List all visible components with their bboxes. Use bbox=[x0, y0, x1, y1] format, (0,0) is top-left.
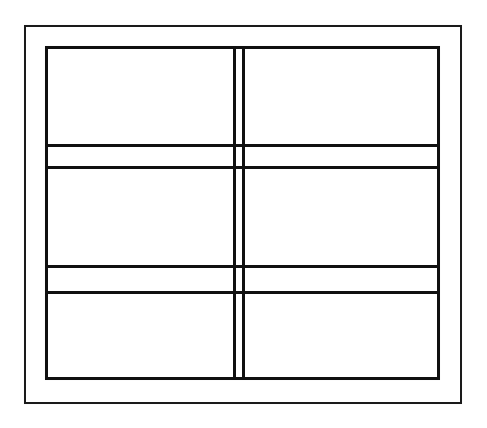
pane-bottom-left bbox=[48, 294, 233, 380]
pane-top-left bbox=[48, 49, 233, 144]
rail-strip-upper-left bbox=[48, 147, 233, 166]
mullion-left-stile bbox=[233, 46, 236, 380]
rail-strip-upper-right bbox=[245, 147, 440, 166]
pane-top-right bbox=[245, 49, 440, 144]
window-frame-drawing bbox=[0, 0, 487, 428]
pane-middle-right bbox=[245, 169, 440, 265]
figure-canvas bbox=[0, 0, 487, 428]
rail-strip-lower-left bbox=[48, 268, 233, 291]
rail-strip-lower-right bbox=[245, 268, 440, 291]
pane-middle-left bbox=[48, 169, 233, 265]
pane-bottom-right bbox=[245, 294, 440, 380]
